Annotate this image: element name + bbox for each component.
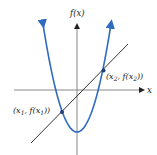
y-axis-label: f(x) <box>69 8 85 18</box>
function-diagram: f(x) x (x1, f(x1)) (x2, f(x2)) <box>0 0 157 155</box>
intersection-point-2 <box>102 69 106 73</box>
secant-line <box>31 44 128 143</box>
point-label-1: (x1, f(x1)) <box>13 106 50 116</box>
x-axis-label: x <box>147 85 152 95</box>
intersection-point-1 <box>60 110 64 114</box>
point-label-2: (x2, f(x2)) <box>106 72 143 82</box>
